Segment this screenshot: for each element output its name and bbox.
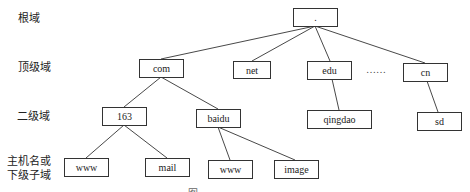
node-root: . [293, 8, 338, 27]
edge-163-www [86, 125, 124, 158]
ellipsis: …… [366, 64, 386, 75]
node-baidu: baidu [196, 109, 241, 128]
edge-root-cn [315, 26, 425, 63]
level-label-top-level: 顶级域 [18, 61, 51, 75]
figure-caption: 图 [188, 185, 198, 192]
node-www-baidu: www [208, 160, 253, 179]
edge-com-baidu [161, 77, 218, 109]
node-image: image [274, 160, 319, 179]
edge-com-163 [124, 77, 161, 107]
level-label-host-line2: 下级子域 [7, 169, 51, 183]
edge-edu-qingdao [332, 79, 339, 110]
edge-root-edu [315, 26, 330, 61]
node-163: 163 [102, 107, 147, 126]
level-label-root: 根域 [18, 12, 40, 26]
node-net: net [233, 61, 271, 79]
node-com: com [139, 59, 184, 78]
edge-baidu-image [218, 127, 295, 160]
node-sd: sd [417, 112, 462, 131]
node-mail: mail [145, 158, 190, 177]
level-label-host: 主机名或 下级子域 [7, 155, 51, 183]
node-www-163: www [64, 158, 109, 177]
edge-root-net [252, 26, 315, 61]
edge-baidu-www [218, 127, 230, 160]
edge-cn-sd [427, 81, 438, 112]
edge-163-mail [124, 125, 167, 158]
level-label-second-level: 二级域 [17, 110, 50, 124]
edge-root-com [161, 26, 315, 59]
node-cn: cn [403, 63, 448, 82]
node-qingdao: qingdao [307, 110, 372, 129]
level-label-host-line1: 主机名或 [7, 155, 51, 169]
node-edu: edu [307, 61, 352, 80]
